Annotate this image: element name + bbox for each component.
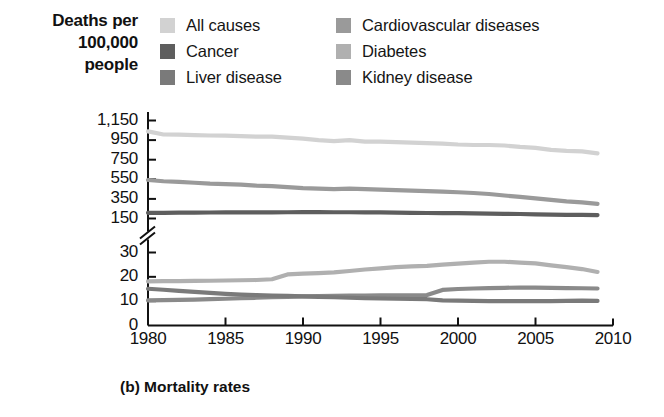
y-tick-label-30: 30 — [28, 242, 138, 262]
series-line-cancer — [148, 212, 598, 215]
figure-caption: (b) Mortality rates — [120, 378, 250, 396]
y-tick-label-750: 750 — [28, 149, 138, 169]
y-tick-label-950: 950 — [28, 129, 138, 149]
x-tick-label-2005: 2005 — [501, 329, 571, 349]
x-tick-label-2010: 2010 — [578, 329, 648, 349]
y-tick-label-20: 20 — [28, 266, 138, 286]
y-tick-label-1150: 1,150 — [28, 110, 138, 130]
y-tick-label-350: 350 — [28, 188, 138, 208]
mortality-rates-figure: Deaths per 100,000 people All causes Can… — [0, 0, 664, 417]
x-tick-label-1980: 1980 — [113, 329, 183, 349]
series-line-cardiovascular-diseases — [148, 180, 598, 204]
x-tick-label-1985: 1985 — [191, 329, 261, 349]
y-tick-label-150: 150 — [28, 208, 138, 228]
y-tick-label-10: 10 — [28, 290, 138, 310]
x-tick-label-1995: 1995 — [346, 329, 416, 349]
x-tick-label-1990: 1990 — [268, 329, 338, 349]
x-tick-label-2000: 2000 — [423, 329, 493, 349]
series-line-all-causes — [148, 131, 598, 153]
y-tick-label-550: 550 — [28, 168, 138, 188]
series-line-diabetes — [148, 262, 598, 282]
